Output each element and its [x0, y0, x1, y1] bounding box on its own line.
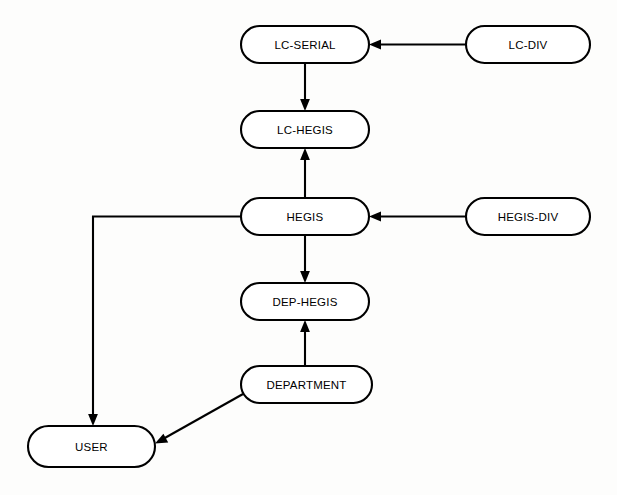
edge-department-to-user [155, 394, 243, 444]
edge-hegis-to-dep-hegis [300, 235, 310, 283]
node-lc-hegis[interactable]: LC-HEGIS [241, 111, 369, 148]
node-lc-div-label: LC-DIV [509, 39, 548, 51]
node-user-label: USER [75, 441, 108, 453]
edge-department-to-dep-hegis [300, 320, 310, 366]
node-hegis[interactable]: HEGIS [241, 198, 369, 235]
node-lc-serial[interactable]: LC-SERIAL [241, 26, 369, 63]
edge-lc-serial-to-lc-hegis [300, 63, 310, 111]
node-dep-hegis-label: DEP-HEGIS [272, 296, 337, 308]
node-department-label: DEPARTMENT [266, 379, 346, 391]
node-hegis-div-label: HEGIS-DIV [498, 211, 559, 223]
node-dep-hegis[interactable]: DEP-HEGIS [241, 283, 369, 320]
node-user[interactable]: USER [28, 426, 155, 467]
edge-hegis-to-user [88, 217, 241, 427]
node-layer: LC-SERIAL LC-DIV LC-HEGIS HEGIS HEGIS-DI… [28, 26, 590, 467]
node-lc-hegis-label: LC-HEGIS [277, 124, 333, 136]
node-hegis-div[interactable]: HEGIS-DIV [466, 198, 590, 235]
edge-hegis-to-lc-hegis [300, 148, 310, 198]
edge-lc-div-to-lc-serial [369, 40, 466, 50]
edge-hegis-div-to-hegis [369, 212, 466, 222]
diagram-svg: LC-SERIAL LC-DIV LC-HEGIS HEGIS HEGIS-DI… [0, 0, 617, 495]
node-lc-div[interactable]: LC-DIV [466, 26, 590, 63]
node-lc-serial-label: LC-SERIAL [274, 39, 336, 51]
node-department[interactable]: DEPARTMENT [241, 366, 372, 403]
diagram-canvas: LC-SERIAL LC-DIV LC-HEGIS HEGIS HEGIS-DI… [0, 0, 617, 495]
node-hegis-label: HEGIS [287, 211, 324, 223]
